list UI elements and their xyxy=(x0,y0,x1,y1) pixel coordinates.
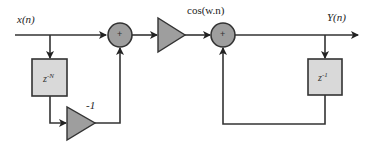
cos-input-label: cos(w.n) xyxy=(187,5,224,16)
gain-mid-triangle xyxy=(158,18,185,52)
delay-n-label: z-N xyxy=(43,73,54,84)
gain-neg-label: -1 xyxy=(86,100,95,111)
delay-1-exponent: -1 xyxy=(322,71,328,79)
output-label: Y(n) xyxy=(327,12,346,23)
delay-n-to-gain-wire xyxy=(50,96,66,123)
input-label: x(n) xyxy=(17,14,35,25)
delay-1-label: z-1 xyxy=(318,72,328,83)
summer-2-plus: + xyxy=(220,30,225,39)
summer-1-plus: + xyxy=(117,30,122,39)
signal-flow-diagram xyxy=(0,0,371,147)
gain-to-summer1-wire xyxy=(95,48,120,123)
gain-neg-one-triangle xyxy=(67,107,95,140)
delay-n-exponent: -N xyxy=(47,72,54,80)
